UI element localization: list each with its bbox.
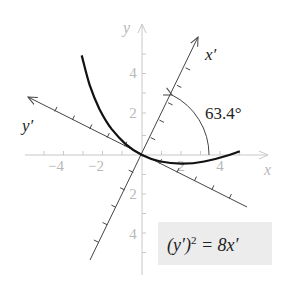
x-prime-label: x′	[204, 45, 217, 64]
x-tick-label: −2	[88, 158, 104, 174]
y-prime-label: y′	[20, 116, 34, 135]
angle-arc	[172, 95, 209, 155]
equation-label: (y′)2 = 8x′	[167, 234, 240, 256]
x-tick-label: −4	[48, 158, 64, 174]
equation-box: (y′)2 = 8x′	[158, 222, 272, 265]
y-tick-label: 2	[129, 105, 137, 121]
y-tick-label: 4	[129, 226, 137, 242]
x-axis-label: x	[263, 161, 271, 178]
y-tick-label: 4	[129, 65, 137, 81]
y-axis-label: y	[121, 19, 131, 37]
y-axis-ticks	[142, 54, 146, 253]
x-tick-label: 4	[216, 158, 224, 174]
angle-label: 63.4°	[205, 104, 242, 123]
y-tick-label: 2	[129, 186, 137, 202]
x-tick-label: 2	[177, 158, 185, 174]
rotated-parabola-diagram: −4 −2 2 4 4 2 2 4 x y	[0, 0, 285, 283]
